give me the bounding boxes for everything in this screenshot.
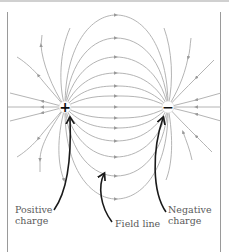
positive-charge-label: Positive charge [15, 204, 53, 226]
plus-symbol: + [59, 99, 71, 115]
pointer-field-line-arrow [101, 174, 112, 222]
pointer-negative-arrow [155, 118, 166, 212]
minus-symbol: − [162, 99, 174, 115]
field-lines [8, 15, 221, 199]
negative-charge-label: Negative charge [168, 204, 212, 226]
positive-charge: + [59, 99, 71, 115]
pointer-positive-arrow [54, 118, 70, 210]
field-line-label: Field line [115, 218, 160, 229]
negative-charge: − [162, 99, 174, 115]
